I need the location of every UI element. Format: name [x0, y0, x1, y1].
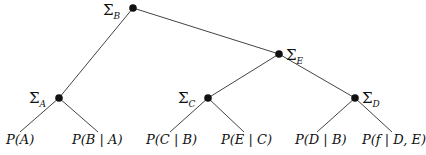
node-label-C: ΣC — [178, 91, 196, 109]
leaf-label-1: P(A) — [6, 132, 34, 147]
leaf-label-6: P(f | D, E) — [362, 132, 426, 147]
node-label-D: ΣD — [362, 91, 380, 109]
node-subscript: E — [297, 56, 304, 66]
node-A-dot — [55, 94, 63, 102]
sigma-symbol: Σ — [178, 89, 189, 107]
sigma-symbol: Σ — [29, 89, 40, 107]
node-B-dot — [129, 4, 137, 12]
leaf-label-3: P(C | B) — [146, 132, 197, 147]
node-C-dot — [204, 94, 212, 102]
node-label-E: ΣE — [286, 48, 303, 66]
node-subscript: D — [373, 99, 380, 109]
node-E-dot — [275, 50, 283, 58]
edge-B-E — [133, 8, 279, 54]
sigma-symbol: Σ — [103, 1, 114, 19]
sigma-symbol: Σ — [362, 89, 373, 107]
node-subscript: B — [114, 11, 121, 21]
leaf-label-5: P(D | B) — [295, 132, 347, 147]
node-D-dot — [351, 94, 359, 102]
node-label-A: ΣA — [29, 91, 46, 109]
sigma-symbol: Σ — [286, 46, 297, 64]
edge-D-leaf5 — [317, 98, 355, 132]
node-subscript: C — [189, 99, 196, 109]
edge-C-leaf4 — [208, 98, 244, 132]
leaf-label-4: P(E | C) — [221, 132, 272, 147]
node-label-B: ΣB — [103, 3, 120, 21]
edge-B-A — [59, 8, 133, 98]
edge-A-leaf2 — [59, 98, 98, 132]
edge-E-C — [208, 54, 279, 98]
leaf-label-2: P(B | A) — [72, 132, 122, 147]
node-subscript: A — [40, 99, 47, 109]
